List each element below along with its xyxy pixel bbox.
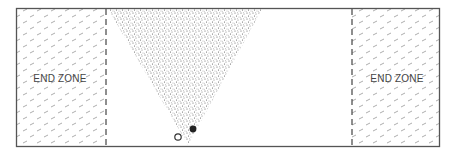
player-open-circle-icon [175,134,181,140]
end-zone-left-label: END ZONE [33,73,86,84]
end-zone-left: END ZONE [17,9,106,146]
end-zone-right: END ZONE [352,9,439,146]
coverage-triangle [108,9,262,145]
end-zone-right-label: END ZONE [370,73,423,84]
player-filled-circle-icon [190,126,197,133]
field-diagram: END ZONE END ZONE [0,0,455,158]
